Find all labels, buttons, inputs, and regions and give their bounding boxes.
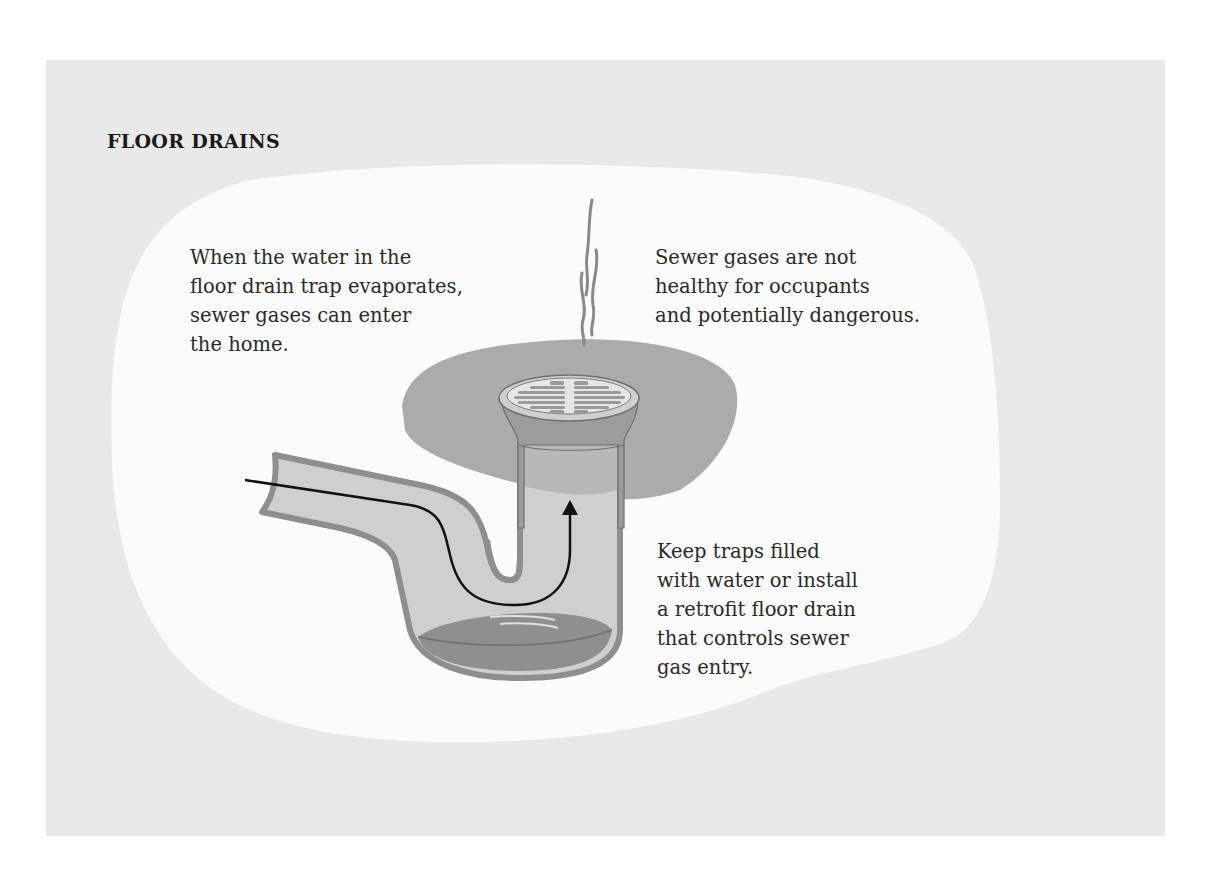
caption-line: a retrofit floor drain (657, 595, 858, 624)
caption-solution: Keep traps filled with water or install … (657, 537, 858, 682)
caption-line: Sewer gases are not (655, 243, 920, 272)
caption-line: gas entry. (657, 653, 858, 682)
caption-line: floor drain trap evaporates, (190, 272, 463, 301)
caption-line: Keep traps filled (657, 537, 858, 566)
caption-evaporation: When the water in the floor drain trap e… (190, 243, 463, 359)
caption-line: When the water in the (190, 243, 463, 272)
caption-line: sewer gases can enter (190, 301, 463, 330)
caption-line: and potentially dangerous. (655, 301, 920, 330)
caption-line: that controls sewer (657, 624, 858, 653)
page-title: FLOOR DRAINS (107, 130, 280, 152)
drain-grate (499, 375, 639, 421)
caption-health: Sewer gases are not healthy for occupant… (655, 243, 920, 330)
caption-line: healthy for occupants (655, 272, 920, 301)
caption-line: with water or install (657, 566, 858, 595)
caption-line: the home. (190, 330, 463, 359)
